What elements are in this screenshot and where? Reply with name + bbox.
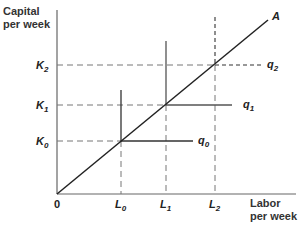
origin-label: 0 [54, 198, 60, 210]
y-tick-k0: K0 [36, 135, 49, 150]
fixed-proportions-isoquant-diagram: Capital per week Labor per week 0 A K2 K… [0, 0, 303, 228]
y-axis-title-line1: Capital [3, 5, 40, 17]
x-tick-l0: L0 [115, 198, 127, 213]
ray-label-a: A [271, 10, 280, 22]
isoquant-label-q2: q2 [267, 58, 279, 73]
isoquant-q0 [121, 90, 193, 141]
expansion-ray-a [57, 20, 268, 194]
isoquant-label-q0: q0 [198, 134, 210, 149]
x-tick-l1: L1 [160, 198, 172, 213]
y-tick-k2: K2 [36, 59, 49, 74]
y-axis-title-line2: per week [3, 18, 51, 30]
y-tick-k1: K1 [36, 99, 49, 114]
x-axis-title-line1: Labor [250, 197, 281, 209]
x-axis-title-line2: per week [250, 210, 298, 222]
isoquant-label-q1: q1 [243, 98, 255, 113]
x-tick-l2: L2 [209, 198, 221, 213]
